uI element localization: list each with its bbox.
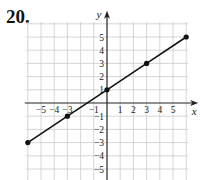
y-tick-label: 3 bbox=[99, 59, 104, 69]
x-axis-label: x bbox=[191, 105, 197, 117]
y-axis-label: y bbox=[96, 8, 102, 20]
y-tick-label: 4 bbox=[99, 46, 104, 56]
y-tick-label: −3 bbox=[94, 138, 104, 148]
x-tick-label: 3 bbox=[144, 105, 149, 115]
y-tick-label: 5 bbox=[99, 33, 104, 43]
x-tick-label: 5 bbox=[171, 105, 176, 115]
data-point bbox=[25, 140, 30, 145]
y-tick-label: −2 bbox=[94, 125, 104, 135]
x-tick-label: 2 bbox=[131, 105, 136, 115]
x-tick-label: −5 bbox=[36, 105, 46, 115]
data-point bbox=[65, 114, 70, 119]
x-tick-label: 4 bbox=[157, 105, 162, 115]
y-tick-label: 2 bbox=[99, 72, 104, 82]
x-tick-label: −4 bbox=[49, 105, 59, 115]
data-point bbox=[184, 34, 189, 39]
y-tick-label: −5 bbox=[94, 165, 104, 175]
y-tick-label: −4 bbox=[94, 151, 104, 161]
y-tick-label: −1 bbox=[94, 112, 104, 122]
data-point bbox=[144, 61, 149, 66]
x-tick-label: 1 bbox=[118, 105, 123, 115]
coordinate-plane: xy−5−4−3−11234554321−1−2−3−4−5 bbox=[0, 0, 200, 180]
data-point bbox=[104, 87, 109, 92]
